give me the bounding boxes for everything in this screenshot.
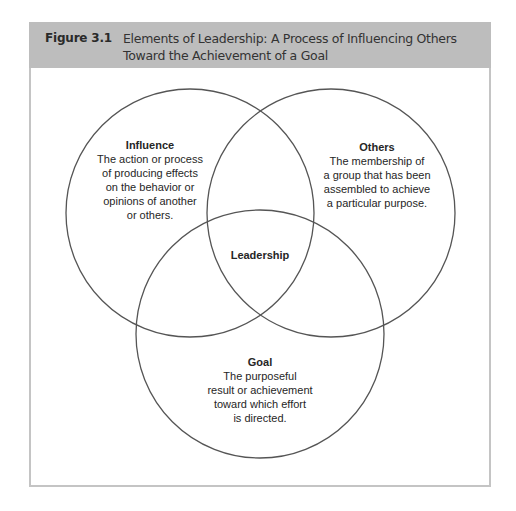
others-circle <box>207 89 455 337</box>
influence-title: Influence <box>97 138 203 152</box>
influence-text: Influence The action or process of produ… <box>97 138 203 222</box>
others-text: Others The membership of a group that ha… <box>323 140 430 210</box>
influence-description: The action or process of producing effec… <box>97 152 203 222</box>
goal-text: Goal The purposeful result or achievemen… <box>207 355 312 425</box>
others-description: The membership of a group that has been … <box>323 154 430 210</box>
goal-title: Goal <box>207 355 312 369</box>
goal-description: The purposeful result or achievement tow… <box>207 369 312 425</box>
leadership-label: Leadership <box>231 249 290 261</box>
others-title: Others <box>323 140 430 154</box>
